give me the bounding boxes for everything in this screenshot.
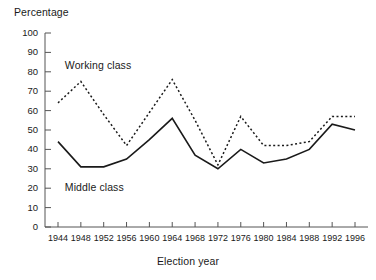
y-tick-label: 40 <box>12 144 38 154</box>
series-line-working-class <box>58 80 355 165</box>
x-tick-label: 1996 <box>340 233 370 243</box>
chart-container: Percentage 1009080706050403020100 194419… <box>0 0 376 280</box>
y-tick-label: 30 <box>12 164 38 174</box>
x-axis-title: Election year <box>0 255 376 267</box>
series-line-middle-class <box>58 118 355 168</box>
x-tick-marks <box>58 222 355 227</box>
y-tick-label: 70 <box>12 86 38 96</box>
y-tick-label: 0 <box>12 222 38 232</box>
y-tick-label: 80 <box>12 67 38 77</box>
y-tick-label: 20 <box>12 183 38 193</box>
y-tick-marks <box>45 33 51 227</box>
series-label-middle-class: Middle class <box>65 181 124 193</box>
y-tick-label: 60 <box>12 106 38 116</box>
series-label-working-class: Working class <box>65 59 131 71</box>
y-tick-label: 90 <box>12 47 38 57</box>
y-tick-label: 10 <box>12 203 38 213</box>
y-tick-label: 100 <box>12 28 38 38</box>
y-tick-label: 50 <box>12 125 38 135</box>
